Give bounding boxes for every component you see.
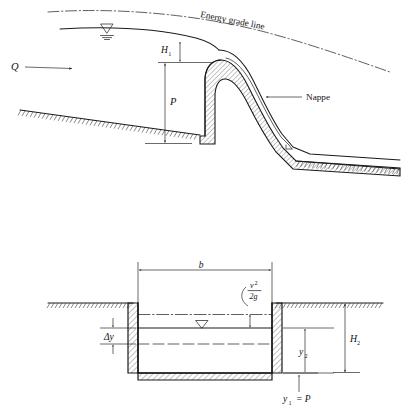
weir-structure-body	[200, 60, 400, 176]
svg-text:y: y	[282, 394, 288, 404]
figure-root: Energy grade line Q	[0, 0, 401, 409]
H2-label: H 2	[349, 333, 360, 346]
velocity-head-leader	[242, 287, 248, 306]
upstream-water-surface	[60, 28, 219, 50]
upstream-bed-hatching	[18, 110, 197, 139]
channel-right-wall	[272, 303, 282, 373]
water-surface-symbol-upstream	[101, 24, 114, 40]
svg-text:1: 1	[289, 399, 292, 406]
svg-text:2: 2	[357, 339, 360, 346]
nappe-upper-surface	[219, 50, 400, 160]
channel-inner-outline	[138, 303, 272, 373]
svg-text:= P: = P	[296, 394, 311, 404]
head-H1-label: H 1	[160, 45, 171, 57]
delta-y-label: Δy	[103, 332, 115, 342]
right-ground-hatching	[275, 303, 382, 308]
water-surface-symbol-section	[196, 321, 208, 329]
left-ground-hatching	[47, 303, 130, 308]
svg-text:y: y	[298, 347, 304, 357]
weir-figure-svg: Energy grade line Q	[0, 0, 401, 409]
y2-label: y 2	[298, 347, 308, 359]
discharge-label-Q: Q	[11, 61, 19, 72]
svg-text:2: 2	[305, 352, 308, 359]
channel-cross-section-view: b v 2 2g Δy y 2 H 2	[47, 260, 383, 406]
velocity-head-label: v 2 2g	[248, 279, 261, 301]
svg-text:v: v	[250, 281, 254, 290]
svg-text:1: 1	[168, 50, 171, 57]
nappe-inner-edge	[286, 145, 292, 149]
width-b-label: b	[199, 260, 204, 270]
channel-floor	[138, 373, 272, 380]
nappe-label: Nappe	[306, 92, 330, 102]
flow-direction-arrow	[25, 67, 72, 69]
svg-text:2g: 2g	[250, 292, 258, 301]
weir-height-P-label: P	[169, 96, 177, 107]
energy-grade-line-label: Energy grade line	[200, 9, 266, 31]
weir-profile-view: Energy grade line Q	[11, 9, 400, 176]
y1-equals-P-label: y 1 = P	[282, 394, 311, 406]
channel-left-wall	[128, 303, 138, 373]
svg-text:2: 2	[255, 279, 258, 286]
